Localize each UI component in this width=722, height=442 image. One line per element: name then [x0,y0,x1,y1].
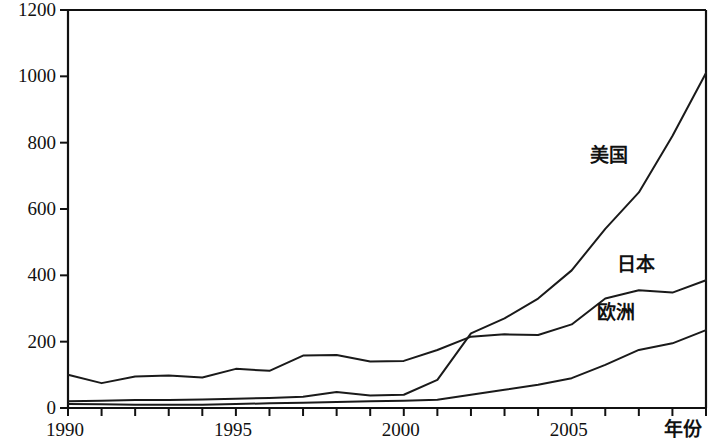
y-tick-label: 0 [47,398,57,417]
chart-figure: 020040060080010001200 1990199520002005 美… [0,0,722,442]
chart-tick-marks [60,10,706,416]
series-line-2 [68,330,706,405]
x-tick-label: 2000 [382,420,420,439]
x-tick-label: 2005 [550,420,588,439]
series-line-1 [68,280,706,383]
y-tick-label: 400 [28,265,57,284]
y-tick-label: 1000 [18,66,56,85]
x-tick-label: 1990 [46,420,84,439]
series-label-1: 日本 [617,255,655,274]
line-chart-plot [0,0,722,442]
y-tick-label: 800 [28,133,57,152]
series-label-0: 美国 [590,146,628,165]
series-line-0 [68,73,706,401]
y-tick-label: 600 [28,199,57,218]
series-label-2: 欧洲 [597,303,635,322]
x-axis-title: 年份 [664,420,702,439]
chart-series-lines [68,73,706,405]
chart-axes [68,10,706,408]
y-tick-label: 1200 [18,0,56,19]
y-tick-label: 200 [28,332,57,351]
x-tick-label: 1995 [214,420,252,439]
